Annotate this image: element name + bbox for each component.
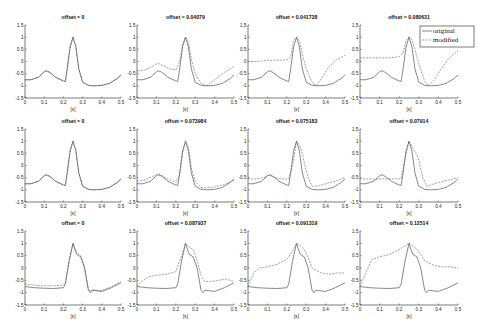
x-tick-label: 0.3 (192, 307, 199, 312)
series-modified (25, 243, 121, 291)
y-tick-label: 1 (244, 139, 247, 144)
y-tick-label: 1 (356, 139, 359, 144)
x-tick-label: 0.3 (79, 204, 86, 209)
y-tick-label: 1.5 (352, 127, 359, 132)
x-tick-label: 0.5 (118, 307, 125, 312)
x-tick-label: 0.4 (99, 204, 106, 209)
subplot-10: offset = 0.087937-1.5-1-0.500.511.500.10… (128, 220, 238, 319)
x-tick-label: 0.1 (376, 307, 383, 312)
x-tick-label: 0.1 (41, 204, 48, 209)
y-tick-label: 0.5 (17, 253, 24, 258)
figure-grid: offset = 0-1.5-1-0.500.511.500.10.20.30.… (0, 0, 477, 336)
x-tick-label: 0 (136, 100, 139, 105)
y-tick-label: 0.5 (240, 47, 247, 52)
x-tick-label: 0.3 (192, 100, 199, 105)
y-tick-label: 1.5 (17, 127, 24, 132)
y-tick-label: 0 (356, 163, 359, 168)
x-tick-label: 0.2 (60, 307, 67, 312)
y-tick-label: 0 (244, 163, 247, 168)
y-tick-label: 0 (21, 266, 24, 271)
y-tick-label: 0.5 (17, 151, 24, 156)
y-tick-label: 1.5 (240, 23, 247, 28)
y-tick-label: -1.5 (16, 96, 24, 101)
x-tick-label: 0.5 (118, 204, 125, 209)
subplot-12: offset = 0.12514-1.5-1-0.500.511.500.10.… (351, 220, 462, 319)
x-tick-label: 0.5 (231, 204, 238, 209)
y-tick-label: -0.5 (16, 278, 24, 283)
y-tick-label: 1 (21, 35, 24, 40)
x-tick-label: 0 (247, 204, 250, 209)
x-tick-label: 0.5 (231, 307, 238, 312)
subplot-title: offset = 0.04079 (166, 14, 205, 20)
subplot-8: offset = 0.07914-1.5-1-0.500.511.500.10.… (351, 118, 462, 216)
series-modified (137, 37, 234, 86)
x-tick-label: 0.5 (231, 100, 238, 105)
subplot-title: offset = 0.080631 (388, 14, 430, 20)
y-tick-label: -0.5 (351, 175, 359, 180)
axes-frame (360, 231, 458, 305)
x-tick-label: 0.1 (376, 100, 383, 105)
x-tick-label: 0 (24, 307, 27, 312)
y-tick-label: 1 (356, 35, 359, 40)
x-tick-label: 0 (24, 100, 27, 105)
y-tick-label: -0.5 (128, 71, 136, 76)
y-tick-label: -1.5 (239, 303, 247, 308)
x-tick-label: 0.1 (264, 204, 271, 209)
y-tick-label: 1.5 (17, 229, 24, 234)
y-tick-label: 0.5 (129, 151, 136, 156)
series-original (137, 141, 234, 190)
subplot-title: offset = 0.075183 (276, 118, 318, 124)
x-tick-label: 0.2 (284, 100, 291, 105)
y-tick-label: 1 (356, 241, 359, 246)
y-tick-label: -1 (131, 290, 136, 295)
y-tick-label: 1.5 (129, 127, 136, 132)
series-original (360, 141, 458, 190)
series-modified (137, 243, 234, 286)
subplot-title: offset = 0 (62, 14, 85, 20)
x-tick-label: 0.4 (99, 100, 106, 105)
series-original (25, 141, 121, 190)
y-tick-label: -1 (354, 83, 359, 88)
x-tick-label: 0.2 (284, 307, 291, 312)
y-tick-label: -1.5 (16, 303, 24, 308)
x-tick-label: 0 (359, 100, 362, 105)
y-tick-label: -1 (354, 290, 359, 295)
y-tick-label: -1.5 (351, 200, 359, 205)
y-tick-label: 1 (244, 241, 247, 246)
y-tick-label: 0.5 (129, 253, 136, 258)
x-tick-label: 0.3 (416, 204, 423, 209)
x-axis-label: [s] (407, 107, 412, 112)
x-axis-label: [s] (407, 211, 412, 216)
x-tick-label: 0.5 (342, 204, 349, 209)
x-axis-label: [s] (71, 211, 76, 216)
subplot-3: offset = 0.041738-1.5-1-0.500.511.500.10… (239, 14, 349, 112)
y-tick-label: 0 (133, 59, 136, 64)
subplot-title: offset = 0.091319 (276, 220, 318, 226)
y-tick-label: -1.5 (16, 200, 24, 205)
y-tick-label: 0.5 (240, 253, 247, 258)
y-tick-label: -1 (131, 187, 136, 192)
x-tick-label: 0.4 (322, 307, 329, 312)
y-tick-label: 1 (21, 241, 24, 246)
legend: originalmodified (420, 26, 474, 47)
subplot-title: offset = 0.087937 (165, 220, 207, 226)
series-modified (25, 37, 121, 86)
legend-label-original: original (433, 27, 455, 35)
y-tick-label: -0.5 (128, 175, 136, 180)
y-tick-label: -1 (242, 290, 247, 295)
x-tick-label: 0.4 (211, 307, 218, 312)
x-axis-label: [s] (183, 314, 188, 319)
y-tick-label: 0.5 (17, 47, 24, 52)
y-tick-label: 1 (133, 241, 136, 246)
axes-frame (25, 231, 121, 305)
y-tick-label: 0 (21, 163, 24, 168)
x-tick-label: 0.2 (60, 100, 67, 105)
x-tick-label: 0 (247, 307, 250, 312)
y-tick-label: -1.5 (128, 200, 136, 205)
y-tick-label: -1.5 (128, 96, 136, 101)
x-axis-label: [s] (294, 314, 299, 319)
y-tick-label: 1 (21, 139, 24, 144)
y-tick-label: 1.5 (17, 23, 24, 28)
subplot-11: offset = 0.091319-1.5-1-0.500.511.500.10… (239, 220, 349, 319)
x-tick-label: 0.3 (79, 100, 86, 105)
